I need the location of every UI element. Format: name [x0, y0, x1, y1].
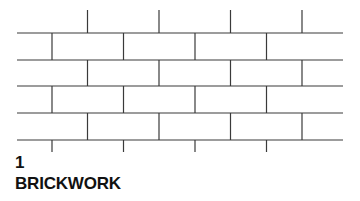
- figure-caption: 1 BRICKWORK: [15, 153, 345, 194]
- top-stub-group: [88, 10, 303, 33]
- brick-pattern-diagram: [0, 0, 360, 160]
- bottom-stub-group: [52, 140, 267, 152]
- bed-joint-group: [17, 33, 343, 140]
- caption-title: BRICKWORK: [15, 174, 345, 194]
- caption-number: 1: [15, 153, 345, 172]
- brickwork-figure: 1 BRICKWORK: [0, 0, 360, 201]
